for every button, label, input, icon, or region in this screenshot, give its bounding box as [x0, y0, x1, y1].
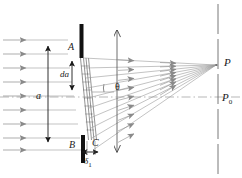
diffraction-figure: A a da B C θ δ1 P P0 [0, 0, 242, 178]
label-diffraction-angle: θ [115, 82, 120, 92]
label-aperture-top: A [68, 42, 74, 52]
label-center-point: P0 [222, 92, 232, 106]
label-aperture-bottom: B [69, 140, 75, 150]
diagram-canvas [0, 0, 242, 178]
incoming-rays-continuation [26, 40, 82, 150]
diffracted-ray-arrowheads-near [118, 60, 134, 143]
slit-aperture-strip [81, 58, 97, 140]
incoming-rays [3, 40, 26, 150]
barrier-top [80, 24, 84, 58]
center-point-subscript: 0 [229, 98, 233, 106]
label-slit-width: a [36, 91, 41, 101]
label-path-difference: δ1 [84, 157, 92, 169]
center-point-symbol: P [222, 91, 229, 103]
path-difference-subscript: 1 [88, 161, 92, 169]
label-slit-element: da [60, 70, 69, 79]
label-wavelet-point: C [92, 138, 99, 148]
focus-point-marker [215, 64, 217, 66]
diffracted-rays [84, 58, 216, 150]
label-focus-point: P [224, 57, 231, 68]
